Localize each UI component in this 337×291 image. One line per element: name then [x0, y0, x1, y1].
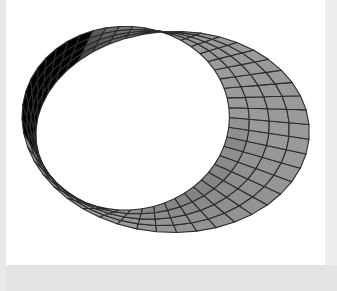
mesh-face — [249, 119, 269, 133]
mesh-face — [269, 121, 289, 136]
mesh-face — [229, 108, 249, 120]
mesh-face — [248, 108, 269, 121]
mesh-face — [287, 109, 309, 124]
mesh-face — [161, 31, 181, 32]
mesh-face — [268, 109, 290, 123]
mesh-face — [227, 97, 248, 108]
page-root — [0, 0, 337, 291]
figure-panel — [6, 0, 325, 265]
mesh-face — [138, 219, 156, 226]
right-page-gutter — [325, 0, 337, 265]
mesh-face — [289, 123, 309, 140]
mobius-strip-plot — [6, 0, 325, 265]
